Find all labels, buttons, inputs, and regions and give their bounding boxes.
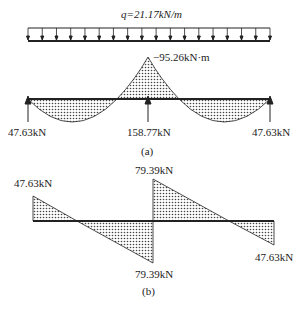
- shear-left-top-label: 47.63kN: [14, 177, 52, 189]
- distributed-load: [27, 28, 272, 41]
- caption-b: (b): [142, 285, 155, 297]
- shear-right-bottom-label: 47.63kN: [255, 251, 293, 263]
- load-label: q=21.17kN/m: [121, 8, 182, 20]
- moment-label: −95.26kN·m: [153, 51, 210, 63]
- caption-a: (a): [141, 145, 153, 157]
- reaction-left-label: 47.63kN: [8, 126, 46, 138]
- shear-diagram: [33, 179, 274, 263]
- reaction-right-label: 47.63kN: [252, 126, 290, 138]
- moment-diagram: [27, 57, 271, 122]
- reaction-middle-label: 158.77kN: [127, 126, 171, 138]
- shear-mid-top-label: 79.39kN: [135, 164, 173, 176]
- shear-mid-bottom-label: 79.39kN: [135, 268, 173, 280]
- beam-diagram-figure: q=21.17kN/m −95.26kN·m 47.63kN 158.77kN …: [0, 0, 300, 309]
